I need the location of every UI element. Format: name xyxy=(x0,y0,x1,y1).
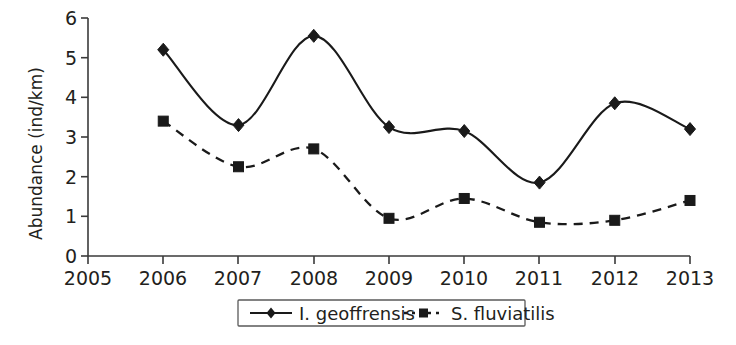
x-tick-label-2012: 2012 xyxy=(591,267,639,289)
legend-label-i-geoffrensis: I. geoffrensis xyxy=(299,303,415,324)
data-point-square xyxy=(234,162,244,172)
data-point-diamond xyxy=(459,125,470,138)
data-point-square xyxy=(685,195,695,205)
data-point-diamond xyxy=(383,121,394,134)
data-point-square xyxy=(535,217,545,227)
series-line-s-fluviatilis xyxy=(163,121,690,224)
data-point-diamond xyxy=(534,176,545,189)
x-tick-marks xyxy=(88,256,690,264)
data-point-square xyxy=(384,213,394,223)
x-tick-label-2013: 2013 xyxy=(666,267,714,289)
x-tick-label-2011: 2011 xyxy=(515,267,563,289)
data-point-square xyxy=(610,215,620,225)
y-tick-label-4: 4 xyxy=(65,86,77,108)
data-point-square xyxy=(459,193,469,203)
y-tick-label-5: 5 xyxy=(65,47,77,69)
chart-figure: Abundance (ind/km) 6 5 4 3 2 1 0 xyxy=(0,0,736,345)
y-tick-label-3: 3 xyxy=(65,126,77,148)
square-icon xyxy=(419,309,428,318)
data-point-square xyxy=(309,144,319,154)
data-point-diamond xyxy=(308,29,319,42)
y-axis-title: Abundance (ind/km) xyxy=(26,67,46,240)
data-point-diamond xyxy=(609,97,620,110)
y-tick-marks xyxy=(81,18,88,256)
x-tick-label-2006: 2006 xyxy=(139,267,187,289)
x-tick-label-2007: 2007 xyxy=(214,267,262,289)
x-tick-label-2008: 2008 xyxy=(290,267,338,289)
y-tick-label-2: 2 xyxy=(65,166,77,188)
x-tick-label-2009: 2009 xyxy=(365,267,413,289)
data-point-square xyxy=(158,116,168,126)
y-tick-label-0: 0 xyxy=(65,245,77,267)
x-tick-label-2005: 2005 xyxy=(64,267,112,289)
x-tick-labels: 2005 2006 2007 2008 2009 2010 2011 2012 … xyxy=(64,267,714,289)
x-tick-label-2010: 2010 xyxy=(440,267,488,289)
legend-label-s-fluviatilis: S. fluviatilis xyxy=(451,303,555,324)
abundance-line-chart: Abundance (ind/km) 6 5 4 3 2 1 0 xyxy=(0,0,736,345)
y-tick-label-1: 1 xyxy=(65,205,77,227)
y-tick-label-6: 6 xyxy=(65,7,77,29)
y-tick-labels: 6 5 4 3 2 1 0 xyxy=(65,7,77,267)
legend: I. geoffrensis S. fluviatilis xyxy=(238,300,555,326)
data-point-diamond xyxy=(684,123,695,136)
series-line-i-geoffrensis xyxy=(163,36,690,183)
series-layer xyxy=(158,29,696,227)
data-point-diamond xyxy=(233,119,244,132)
